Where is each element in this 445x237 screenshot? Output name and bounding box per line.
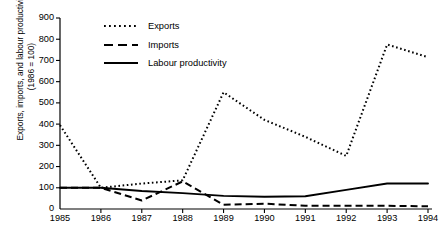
- legend-label-labour-productivity: Labour productivity: [148, 59, 227, 68]
- data-series: [60, 45, 428, 207]
- line-chart: Exports, imports, and labour productivit…: [0, 0, 445, 237]
- legend-swatch-exports: [104, 21, 140, 31]
- legend-label-exports: Exports: [148, 22, 180, 31]
- plot-area: [0, 0, 445, 237]
- legend-swatch-labour-productivity: [104, 58, 140, 68]
- legend-label-imports: Imports: [148, 41, 179, 50]
- legend-swatch-imports: [104, 40, 140, 50]
